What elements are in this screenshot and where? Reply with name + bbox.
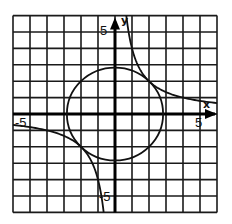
axis-labels: 5 -5 -5 5 y x — [15, 14, 210, 204]
x-tick-label-neg5: -5 — [15, 115, 27, 130]
y-tick-label-5: 5 — [100, 23, 107, 38]
x-tick-label-5: 5 — [195, 115, 202, 130]
hyperbola-branch-q3 — [13, 125, 104, 212]
graph-plot: 5 -5 -5 5 y x — [0, 0, 232, 224]
hyperbola-branch-q1 — [126, 16, 217, 103]
y-tick-label-neg5: -5 — [99, 189, 111, 204]
axes — [13, 18, 217, 213]
x-axis-label: x — [203, 98, 210, 111]
y-axis-label: y — [121, 14, 128, 27]
y-axis-arrow-icon — [110, 18, 120, 30]
